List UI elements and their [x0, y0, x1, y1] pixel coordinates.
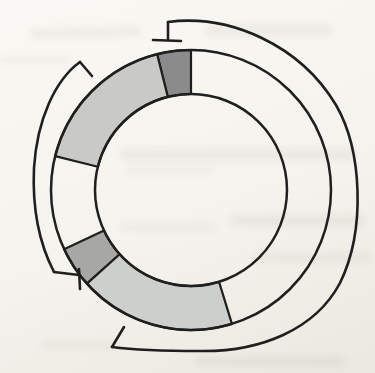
- outer-bracket-left-blunt-end-bar-bottom: [79, 269, 80, 289]
- outer-bracket-left-blunt-end-tick-bottom: [54, 272, 79, 275]
- outer-bracket-left-tick-top: [80, 62, 92, 76]
- scanned-page: [0, 0, 375, 373]
- outer-bracket-right-tick-bottom: [112, 327, 124, 347]
- circular-genome-diagram: [0, 0, 375, 373]
- ring-inner-circle: [95, 94, 287, 286]
- outer-bracket-right-blunt-end-bar-top: [153, 40, 181, 41]
- segment-light-upper-left: [55, 54, 168, 167]
- outer-bracket-left: [34, 62, 80, 272]
- segment-light-bottom: [87, 254, 232, 330]
